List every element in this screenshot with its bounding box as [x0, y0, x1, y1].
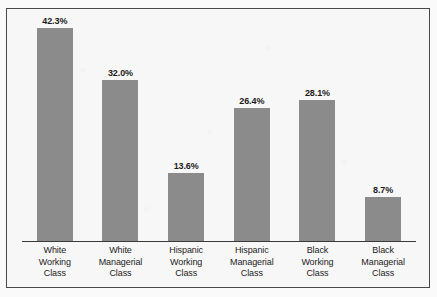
bar[interactable] [234, 108, 270, 241]
category-label-line: Managerial [351, 257, 416, 269]
bar-value-label: 32.0% [108, 68, 133, 78]
category-label: BlackWorkingClass [285, 245, 350, 280]
category-label-line: Black [351, 245, 416, 257]
x-axis-category-labels: WhiteWorkingClassWhiteManagerialClassHis… [22, 245, 416, 280]
category-label-line: Managerial [88, 257, 153, 269]
bar-value-label: 28.1% [305, 88, 330, 98]
bar-value-label: 8.7% [373, 185, 393, 195]
category-label-line: Working [154, 257, 219, 269]
category-label: WhiteManagerialClass [88, 245, 153, 280]
category-label-line: Managerial [219, 257, 284, 269]
bar-group[interactable]: 42.3% [22, 14, 87, 241]
category-label-line: Hispanic [154, 245, 219, 257]
category-label-line: Black [285, 245, 350, 257]
bar-value-label: 13.6% [174, 161, 199, 171]
category-label-line: Working [22, 257, 87, 269]
bar-group[interactable]: 8.7% [351, 14, 416, 241]
x-axis-line [22, 241, 416, 242]
bar[interactable] [37, 28, 73, 241]
category-label-line: Class [219, 268, 284, 280]
bar-group[interactable]: 26.4% [219, 14, 284, 241]
chart-figure: 42.3%32.0%13.6%26.4%28.1%8.7% WhiteWorki… [0, 0, 437, 297]
bar[interactable] [365, 197, 401, 241]
category-label: HispanicManagerialClass [219, 245, 284, 280]
category-label: HispanicWorkingClass [154, 245, 219, 280]
category-label-line: Working [285, 257, 350, 269]
bar[interactable] [102, 80, 138, 241]
bar[interactable] [299, 100, 335, 241]
category-label-line: White [22, 245, 87, 257]
category-label-line: Class [88, 268, 153, 280]
bar-group[interactable]: 32.0% [88, 14, 153, 241]
bar-group[interactable]: 13.6% [154, 14, 219, 241]
bar-series: 42.3%32.0%13.6%26.4%28.1%8.7% [22, 14, 416, 241]
category-label: WhiteWorkingClass [22, 245, 87, 280]
category-label-line: Hispanic [219, 245, 284, 257]
bar[interactable] [168, 173, 204, 241]
category-label-line: Class [285, 268, 350, 280]
bar-value-label: 42.3% [42, 16, 67, 26]
bar-group[interactable]: 28.1% [285, 14, 350, 241]
category-label-line: Class [22, 268, 87, 280]
category-label: BlackManagerialClass [351, 245, 416, 280]
category-label-line: White [88, 245, 153, 257]
bar-value-label: 26.4% [239, 96, 264, 106]
category-label-line: Class [351, 268, 416, 280]
category-label-line: Class [154, 268, 219, 280]
